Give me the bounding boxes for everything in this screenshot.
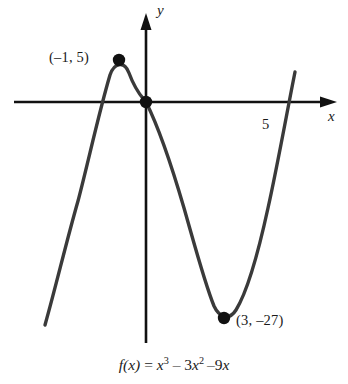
y-axis-label: y (157, 2, 164, 19)
local-max-label: (–1, 5) (49, 49, 89, 66)
equation-argument: (x) (123, 356, 140, 373)
point-local-min (218, 312, 230, 324)
equation-operator-1: – (173, 356, 181, 373)
equation-term3-base: x (222, 356, 229, 373)
equation-term1-base: x (157, 356, 164, 373)
point-local-max (113, 54, 125, 66)
y-axis-arrow-icon (141, 13, 152, 30)
equation-term1-exponent: 3 (164, 355, 169, 366)
equation-operator-2: – (207, 356, 215, 373)
local-min-label: (3, –27) (236, 312, 284, 329)
equation-equals: = (144, 356, 153, 373)
x-axis-label: x (328, 108, 335, 125)
function-equation: f(x) = x3 – 3x2 –9x (0, 356, 348, 374)
cubic-curve (45, 65, 295, 325)
equation-term2-base: x (192, 356, 199, 373)
point-origin (140, 96, 152, 108)
equation-term2-exponent: 2 (199, 355, 204, 366)
x-intercept-tick-label: 5 (262, 116, 269, 133)
equation-term2-coefficient: 3 (184, 356, 192, 373)
graph-figure: y x (–1, 5) (3, –27) 5 f(x) = x3 – 3x2 –… (0, 0, 348, 384)
x-axis-arrow-icon (320, 97, 337, 108)
